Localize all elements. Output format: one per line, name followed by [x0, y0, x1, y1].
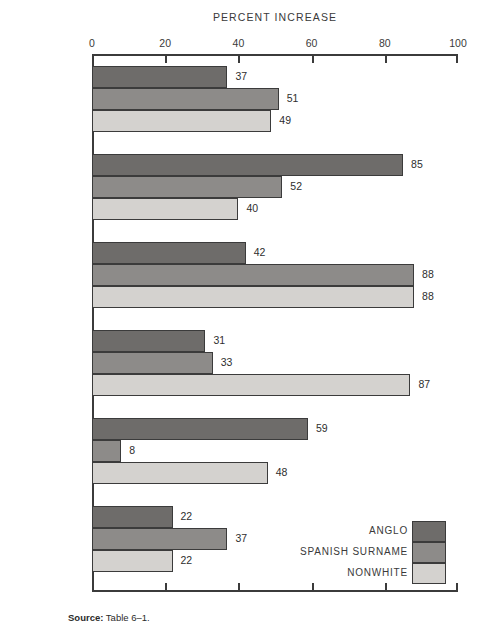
bar-chart: PERCENT INCREASE 020406080100 SOUTHWEST3… — [0, 0, 480, 637]
bar-group: NEW MEXICO59848 — [92, 418, 458, 484]
bar-value-label: 42 — [254, 246, 266, 258]
bar[interactable] — [92, 330, 205, 352]
bar-group: ARIZONA855240 — [92, 154, 458, 220]
bar[interactable] — [92, 506, 173, 528]
bar[interactable] — [92, 242, 246, 264]
bar-row: 51 — [92, 88, 458, 110]
axis-tick-label: 100 — [449, 37, 467, 49]
bar[interactable] — [92, 462, 268, 484]
legend-item[interactable]: SPANISH SURNAME — [412, 542, 446, 563]
axis-top-line — [92, 54, 458, 56]
bar[interactable] — [92, 352, 213, 374]
bar-row: 88 — [92, 264, 458, 286]
legend-swatch — [412, 563, 446, 584]
bar[interactable] — [92, 66, 227, 88]
legend-item[interactable]: NONWHITE — [412, 563, 446, 584]
bar-value-label: 88 — [422, 268, 434, 280]
bar[interactable] — [92, 176, 282, 198]
source-label: Source: — [68, 612, 103, 623]
bar-value-label: 51 — [287, 92, 299, 104]
axis-tick-bottom — [312, 583, 314, 590]
axis-tick-top — [456, 56, 458, 63]
bar[interactable] — [92, 440, 121, 462]
bar-value-label: 88 — [422, 290, 434, 302]
bar-row: 87 — [92, 374, 458, 396]
source-note: Source: Table 6–1. — [68, 612, 150, 623]
bar-value-label: 40 — [246, 202, 258, 214]
bar-value-label: 48 — [276, 466, 288, 478]
legend-label: SPANISH SURNAME — [300, 546, 408, 557]
bar-value-label: 31 — [213, 334, 225, 346]
plot-area: 020406080100 SOUTHWEST375149ARIZONA85524… — [92, 54, 458, 592]
legend-swatch — [412, 521, 446, 542]
axis-bottom-line — [92, 590, 458, 592]
bar-row: 85 — [92, 154, 458, 176]
bar[interactable] — [92, 418, 308, 440]
bar-row: 31 — [92, 330, 458, 352]
bar[interactable] — [92, 550, 173, 572]
bar[interactable] — [92, 198, 238, 220]
axis-tick-bottom — [92, 583, 94, 590]
bar-row: 42 — [92, 242, 458, 264]
legend-label: ANGLO — [369, 525, 408, 536]
bar-value-label: 8 — [129, 444, 135, 456]
bar-value-label: 37 — [235, 532, 247, 544]
axis-tick-top — [165, 56, 167, 63]
bar-row: 37 — [92, 66, 458, 88]
bar-value-label: 22 — [181, 554, 193, 566]
bar-value-label: 87 — [418, 378, 430, 390]
bar-value-label: 49 — [279, 114, 291, 126]
bar-value-label: 85 — [411, 158, 423, 170]
legend: ANGLOSPANISH SURNAMENONWHITE — [412, 521, 446, 584]
bar[interactable] — [92, 154, 403, 176]
bar[interactable] — [92, 374, 410, 396]
axis-tick-label: 60 — [306, 37, 318, 49]
bar-group: COLORADO313387 — [92, 330, 458, 396]
axis-tick-top — [238, 56, 240, 63]
bar-value-label: 59 — [316, 422, 328, 434]
legend-item[interactable]: ANGLO — [412, 521, 446, 542]
bar-row: 40 — [92, 198, 458, 220]
axis-tick-bottom — [456, 583, 458, 590]
axis-tick-label: 20 — [159, 37, 171, 49]
bar[interactable] — [92, 286, 414, 308]
axis-tick-label: 80 — [379, 37, 391, 49]
bar[interactable] — [92, 264, 414, 286]
axis-tick-top — [385, 56, 387, 63]
axis-tick-bottom — [165, 583, 167, 590]
axis-tick-top — [312, 56, 314, 63]
legend-swatch — [412, 542, 446, 563]
bar-group: CALIFORNIA428888 — [92, 242, 458, 308]
axis-tick-bottom — [238, 583, 240, 590]
bar-row: 33 — [92, 352, 458, 374]
axis-tick-label: 0 — [89, 37, 95, 49]
axis-tick-label: 40 — [233, 37, 245, 49]
bar-value-label: 52 — [290, 180, 302, 192]
bar-group: SOUTHWEST375149 — [92, 66, 458, 132]
bar-value-label: 33 — [221, 356, 233, 368]
bar-row: 59 — [92, 418, 458, 440]
bar-row: 48 — [92, 462, 458, 484]
bar[interactable] — [92, 528, 227, 550]
bar-row: 52 — [92, 176, 458, 198]
bar-row: 49 — [92, 110, 458, 132]
bar-row: 88 — [92, 286, 458, 308]
legend-label: NONWHITE — [347, 567, 408, 578]
axis-tick-top — [92, 56, 94, 63]
chart-title: PERCENT INCREASE — [92, 11, 458, 23]
bar-group: TEXAS223722 — [92, 506, 458, 572]
bar[interactable] — [92, 88, 279, 110]
bar-value-label: 37 — [235, 70, 247, 82]
bar-row: 8 — [92, 440, 458, 462]
axis-tick-bottom — [385, 583, 387, 590]
bar[interactable] — [92, 110, 271, 132]
bar-value-label: 22 — [181, 510, 193, 522]
source-value: Table 6–1. — [103, 612, 149, 623]
